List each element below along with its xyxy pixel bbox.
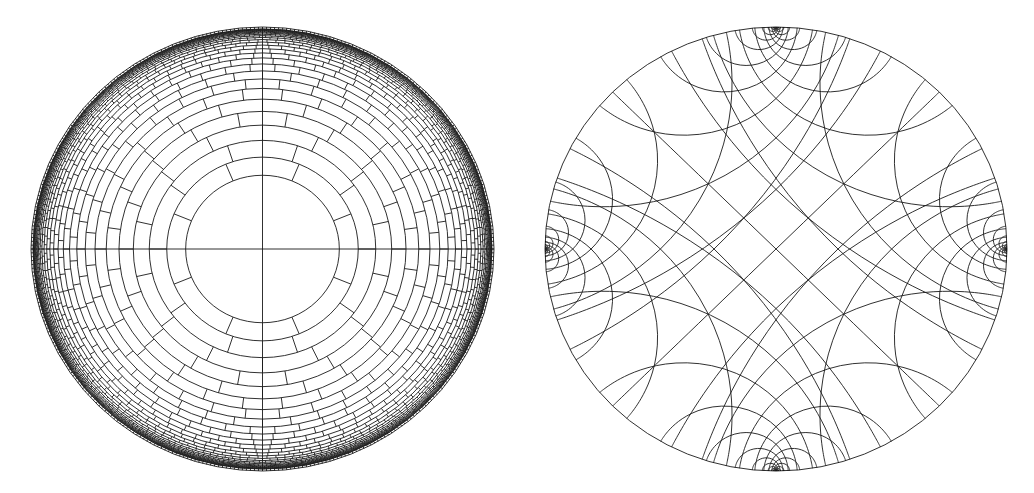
geodesic-lines: [545, 27, 1007, 471]
right-disk-figure: [0, 0, 1034, 493]
geodesic-lattice-disk: [0, 0, 1034, 493]
